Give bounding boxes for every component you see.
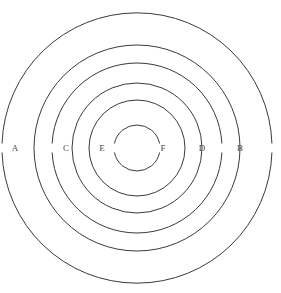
circles-group (2, 13, 272, 283)
circle-label-d: D (199, 143, 206, 153)
concentric-circles-figure: ACEFDB (0, 0, 281, 293)
circle-label-f: F (160, 143, 165, 153)
labels-group: ACEFDB (12, 143, 243, 153)
circle-label-e: E (99, 143, 105, 153)
ring-circle-3-arc-1 (52, 153, 222, 233)
ring-circle-6-arc-1 (114, 152, 159, 171)
circle-label-c: C (63, 143, 69, 153)
ring-circle-4 (72, 83, 202, 213)
circle-label-b: B (237, 143, 243, 153)
circles-canvas: ACEFDB (0, 0, 281, 293)
ring-circle-3-arc-2 (52, 63, 222, 143)
ring-circle-6-arc-2 (114, 125, 159, 144)
circle-label-a: A (12, 143, 19, 153)
ring-circle-1-arc-2 (2, 13, 272, 144)
ring-circle-1-arc-1 (2, 153, 272, 284)
